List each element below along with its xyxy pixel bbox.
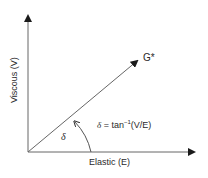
delta-angle-label: δ (61, 131, 66, 142)
formula-exponent: −1 (124, 119, 131, 125)
g-star-label: G* (143, 52, 155, 63)
angle-arc (75, 122, 91, 152)
formula-delta: δ (97, 120, 101, 130)
x-axis-label: Elastic (E) (89, 157, 130, 167)
formula-tan: = tan (104, 120, 124, 130)
phase-angle-formula: δ = tan−1(V/E) (97, 119, 151, 130)
diagram-canvas (0, 0, 208, 178)
formula-argument: (V/E) (131, 120, 152, 130)
g-star-vector (28, 61, 137, 152)
y-axis-label: Viscous (V) (9, 57, 19, 103)
